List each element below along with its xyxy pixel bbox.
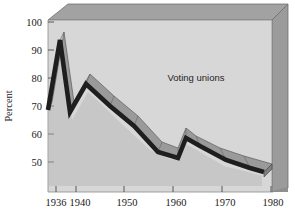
y-tick-label-50: 50 [32, 157, 43, 168]
x-tick-label-1950: 1950 [117, 197, 138, 208]
chart-container: Percent 100 90 80 70 60 50 1936 1940 195… [0, 0, 295, 216]
y-tick-label-100: 100 [26, 17, 42, 28]
y-tick-label-60: 60 [32, 129, 43, 140]
line-chart-3d: Percent 100 90 80 70 60 50 1936 1940 195… [0, 0, 295, 216]
x-tick-label-1936: 1936 [46, 197, 67, 208]
x-tick-label-1970: 1970 [215, 197, 236, 208]
x-tick-label-1980: 1980 [263, 197, 284, 208]
y-tick-label-70: 70 [32, 101, 43, 112]
series-annotation-label: Voting unions [167, 72, 224, 83]
x-tick-label-1960: 1960 [166, 197, 187, 208]
x-tick-label-1940: 1940 [70, 197, 91, 208]
y-tick-label-80: 80 [32, 73, 43, 84]
box-right-panel [272, 4, 288, 192]
y-tick-label-90: 90 [32, 45, 43, 56]
y-axis-title: Percent [3, 90, 14, 122]
box-top-panel [48, 4, 288, 20]
